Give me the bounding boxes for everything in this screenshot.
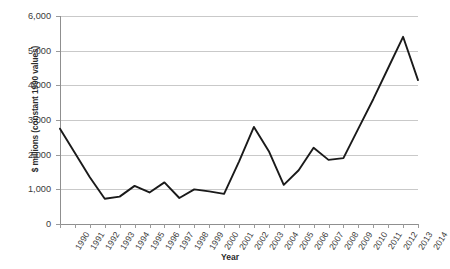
y-axis-tick [56,155,60,156]
x-axis-tick [194,224,195,228]
y-axis-tick-label: 0 [46,219,51,229]
x-axis-tick-label: 1990 [73,230,92,252]
plot-area [60,16,418,224]
x-axis-tick [373,224,374,228]
x-axis-tick [150,224,151,228]
x-axis-tick-label: 1997 [177,230,196,252]
x-axis-tick [254,224,255,228]
x-axis-tick-label: 2005 [297,230,316,252]
x-axis-tick-label: 2006 [312,230,331,252]
x-axis-tick-label: 1995 [148,230,167,252]
x-axis-tick [403,224,404,228]
x-axis-tick-label: 2008 [341,230,360,252]
data-series-line [60,16,418,224]
x-axis-tick [388,224,389,228]
x-axis-tick-label: 2009 [356,230,375,252]
x-axis-tick-label: 2003 [267,230,286,252]
x-axis-tick-label: 2012 [401,230,420,252]
x-axis-title: Year [0,252,424,262]
x-axis-tick [269,224,270,228]
x-axis-tick-label: 2010 [371,230,390,252]
y-axis-tick-label: 3,000 [28,115,51,125]
x-axis-tick [135,224,136,228]
x-axis-tick [329,224,330,228]
x-axis-tick-label: 1991 [88,230,107,252]
x-axis-tick [239,224,240,228]
x-axis-tick [284,224,285,228]
x-axis-tick-label: 1998 [192,230,211,252]
x-axis-tick [179,224,180,228]
x-axis-tick-label: 1996 [162,230,181,252]
x-axis-tick [90,224,91,228]
x-axis-tick [418,224,419,228]
y-axis-tick-label: 1,000 [28,184,51,194]
x-axis-tick [299,224,300,228]
x-axis-tick-label: 2013 [416,230,435,252]
y-axis-tick [56,51,60,52]
x-axis-tick-label: 2000 [222,230,241,252]
x-axis-tick [60,224,61,228]
y-axis-tick [56,85,60,86]
x-axis-tick [75,224,76,228]
x-axis-tick-label: 2007 [327,230,346,252]
y-axis-tick [56,189,60,190]
x-axis-tick [120,224,121,228]
x-axis-ticks [60,224,418,229]
x-axis-tick [105,224,106,228]
x-axis-tick-label: 2002 [252,230,271,252]
x-axis-tick-label: 2001 [237,230,256,252]
x-axis-tick [209,224,210,228]
x-axis-tick [358,224,359,228]
y-axis-tick-label: 2,000 [28,150,51,160]
y-axis-tick [56,120,60,121]
x-axis-tick-label: 1993 [118,230,137,252]
y-axis-tick-label: 4,000 [28,80,51,90]
x-axis-tick-label: 1994 [133,230,152,252]
x-axis-tick [164,224,165,228]
y-axis-tick-labels: 01,0002,0003,0004,0005,0006,000 [0,0,58,269]
x-axis-tick-label: 1992 [103,230,122,252]
x-axis-tick [224,224,225,228]
x-axis-tick-label: 2011 [386,230,404,251]
x-axis-tick [314,224,315,228]
y-axis-tick-label: 6,000 [28,11,51,21]
x-axis-tick-label: 1999 [207,230,226,252]
y-axis-tick [56,16,60,17]
x-axis-tick-label: 2004 [282,230,301,252]
y-axis-tick-label: 5,000 [28,46,51,56]
x-axis-tick [343,224,344,228]
x-axis-tick-label: 2014 [431,230,450,252]
